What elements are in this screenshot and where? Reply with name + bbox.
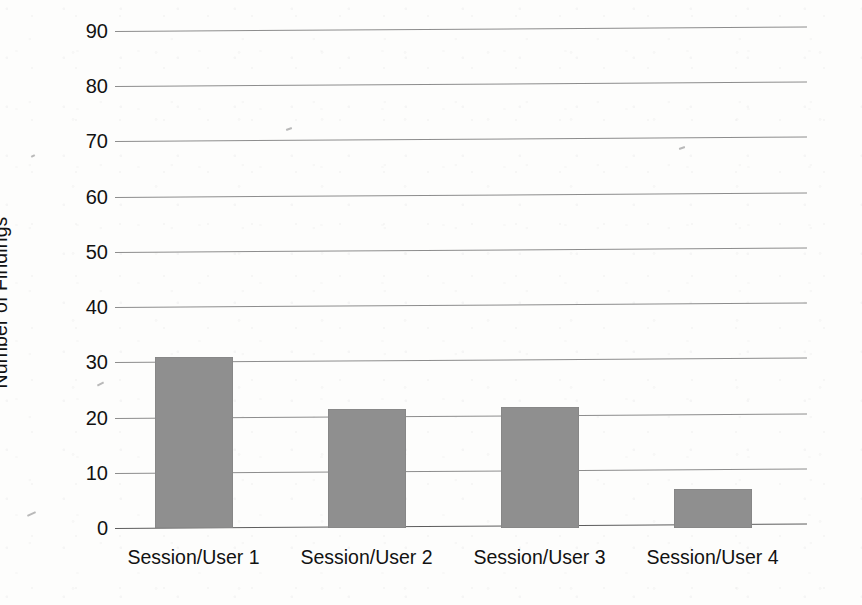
bar bbox=[328, 409, 406, 528]
y-tick-label: 30 bbox=[44, 352, 108, 372]
x-tick-label: Session/User 4 bbox=[646, 548, 778, 568]
y-tick-label: 0 bbox=[44, 518, 108, 538]
bar bbox=[674, 489, 752, 528]
bar bbox=[155, 357, 233, 528]
y-tick-label: 70 bbox=[44, 131, 108, 151]
y-tick-label: 60 bbox=[44, 187, 108, 207]
y-tick-label: 20 bbox=[44, 408, 108, 428]
x-tick-label: Session/User 2 bbox=[300, 548, 432, 568]
y-tick-label: 90 bbox=[44, 21, 108, 41]
y-tick-label: 10 bbox=[44, 463, 108, 483]
y-tick-label: 40 bbox=[44, 297, 108, 317]
y-axis-title: Number of Findings bbox=[0, 0, 44, 605]
x-tick-label: Session/User 1 bbox=[127, 548, 259, 568]
plot-area bbox=[115, 20, 807, 540]
x-tick-label: Session/User 3 bbox=[473, 548, 605, 568]
y-axis-tick-labels: 0102030405060708090 bbox=[44, 0, 108, 605]
x-axis-tick-labels: Session/User 1Session/User 2Session/User… bbox=[115, 548, 835, 582]
y-tick-label: 50 bbox=[44, 242, 108, 262]
bar bbox=[501, 407, 579, 528]
y-tick-label: 80 bbox=[44, 76, 108, 96]
bar-chart-figure: Number of Findings 0102030405060708090 S… bbox=[0, 0, 862, 605]
bar-series bbox=[115, 20, 807, 540]
